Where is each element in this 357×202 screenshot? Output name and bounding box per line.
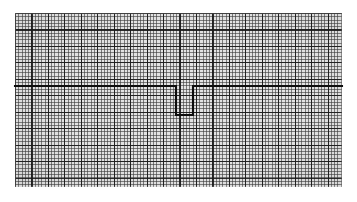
ecg-waveform (0, 0, 357, 202)
ecg-figure: ECG rhythm strip (0, 0, 357, 202)
ecg-waveform-path (15, 86, 342, 115)
